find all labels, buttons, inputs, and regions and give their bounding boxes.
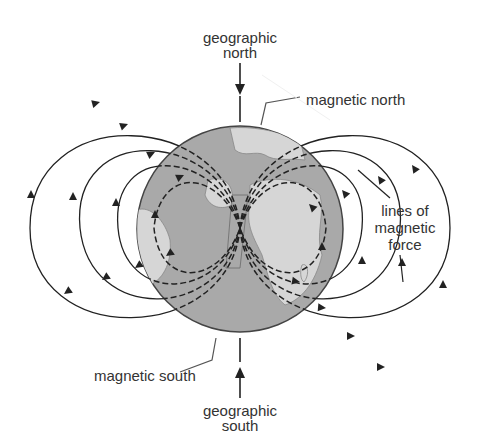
magnetic-north-text: magnetic north [306,91,405,108]
lines-of-force-line3: force [370,236,440,253]
magnetic-north-label: magnetic north [306,92,405,107]
geographic-south-label-line2: south [190,418,290,433]
geographic-south-arrowhead [235,367,245,378]
geographic-north-arrowhead [235,84,245,95]
geographic-north-label-line1: geographic [190,30,290,45]
geographic-north-label-line2: north [190,45,290,60]
geographic-south-label-line1: geographic [190,403,290,418]
lines-of-force-line2: magnetic [370,219,440,236]
lines-of-force-label: lines of magnetic force [370,202,440,253]
magnetic-north-leader [261,97,300,125]
lines-of-force-line1: lines of [370,202,440,219]
geographic-south-label: geographic south [190,403,290,433]
geographic-north-label: geographic north [190,30,290,60]
magnetic-south-label: magnetic south [94,368,196,383]
magnetic-south-text: magnetic south [94,367,196,384]
anchor [0,0,1,1]
